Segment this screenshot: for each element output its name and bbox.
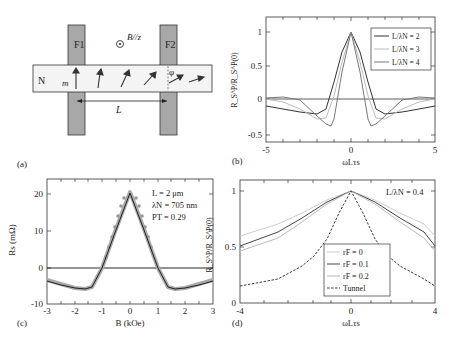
y-tick-label: 1 xyxy=(232,186,237,196)
x-tick-label: -1 xyxy=(98,306,106,316)
legend: L/λN = 2 L/λN = 3 L/λN = 4 xyxy=(371,28,431,70)
legend-entry: rF = 0.2 xyxy=(343,272,369,281)
normal-channel xyxy=(33,65,212,92)
x-tick-label: -4 xyxy=(236,306,244,316)
x-tick-label: 5 xyxy=(433,145,438,155)
panel-label-c: (c) xyxy=(17,318,27,328)
f2-label: F2 xyxy=(165,39,176,50)
figure: F1 F2 N m B//z φ L (a) xyxy=(0,0,453,344)
annotation: L = 2 μm xyxy=(152,188,184,198)
x-axis-label: ωLτs xyxy=(342,318,360,328)
x-tick-label: 3 xyxy=(211,306,216,316)
annotation: λN = 705 nm xyxy=(152,200,197,210)
y-tick-label: 1 xyxy=(258,27,263,37)
y-tick-label: 10 xyxy=(34,226,44,236)
y-tick-label: 0 xyxy=(39,263,44,273)
x-tick-label: -5 xyxy=(262,145,270,155)
x-tick-label: 0 xyxy=(128,306,133,316)
series-rF-0.1 xyxy=(240,191,435,246)
panel-d-chart: rF = 0 rF = 0.1 rF = 0.2 Tunnel L/λN = 0… xyxy=(205,180,438,328)
x-tick-label: -3 xyxy=(43,306,51,316)
legend-entry: rF = 0 xyxy=(343,248,363,257)
y-axis-label: R_S^P/R_S^P(0) xyxy=(205,217,214,273)
y-tick-label: 0.5 xyxy=(251,61,263,71)
panel-c-chart: L = 2 μm λN = 705 nm PT = 0.29 20 10 0 -… xyxy=(7,179,216,328)
angle-label: φ xyxy=(169,67,174,77)
legend-entry: L/λN = 4 xyxy=(392,58,420,67)
x-axis-label: B (kOe) xyxy=(115,318,144,328)
x-tick-label: 1 xyxy=(156,306,161,316)
legend-entry: rF = 0.1 xyxy=(343,260,369,269)
panel-label-a: (a) xyxy=(17,159,27,169)
n-label: N xyxy=(38,75,45,86)
annotation: L/λN = 0.4 xyxy=(386,187,424,197)
annotation: PT = 0.29 xyxy=(152,212,186,222)
y-tick-label: 20 xyxy=(34,189,44,199)
panel-a-schematic: F1 F2 N m B//z φ L (a) xyxy=(17,25,212,169)
m-label: m xyxy=(62,78,69,88)
x-axis-label: ωLτs xyxy=(342,157,360,167)
y-tick-label: 0 xyxy=(258,94,263,104)
panel-label-b: (b) xyxy=(232,156,243,166)
data-markers xyxy=(104,196,153,259)
panel-label-d: (d) xyxy=(232,318,243,328)
x-tick-label: -2 xyxy=(71,306,79,316)
y-axis-label: R_S^P/R_S^P(0) xyxy=(230,52,239,108)
legend-entry: L/λN = 3 xyxy=(392,45,420,54)
length-label: L xyxy=(115,104,122,115)
field-dot-icon xyxy=(119,43,121,45)
field-label: B//z xyxy=(127,32,141,42)
y-tick-label: -0.5 xyxy=(248,130,263,140)
legend-entry: Tunnel xyxy=(343,284,366,293)
y-tick-label: -10 xyxy=(31,299,43,309)
y-tick-label: 0.5 xyxy=(225,242,237,252)
x-tick-label: 0 xyxy=(349,306,354,316)
f1-label: F1 xyxy=(74,39,85,50)
x-tick-label: 4 xyxy=(433,306,438,316)
legend-entry: L/λN = 2 xyxy=(392,32,420,41)
x-tick-label: 2 xyxy=(183,306,188,316)
y-axis-label: Rs (mΩ) xyxy=(7,224,17,255)
x-tick-label: 0 xyxy=(349,145,354,155)
legend: rF = 0 rF = 0.1 rF = 0.2 Tunnel xyxy=(324,244,390,296)
panel-b-chart: L/λN = 2 L/λN = 3 L/λN = 4 1 0.5 0 -0.5 … xyxy=(230,17,438,167)
